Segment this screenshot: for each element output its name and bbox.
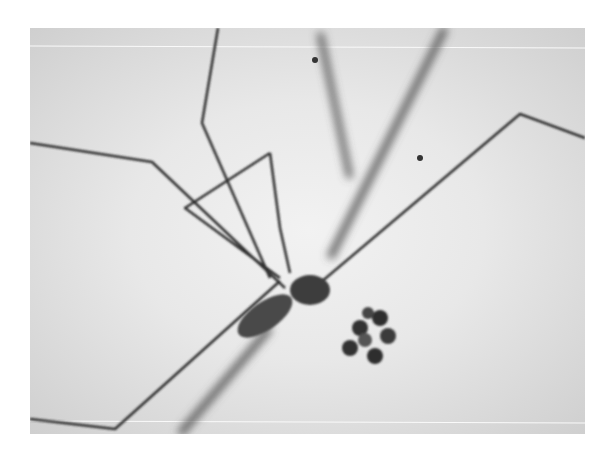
spider-photo	[30, 28, 585, 434]
spider-illustration	[30, 28, 585, 434]
